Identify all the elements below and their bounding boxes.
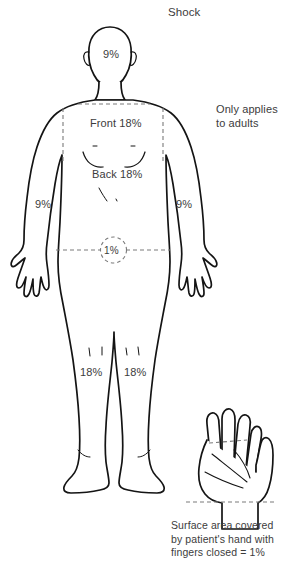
right-leg-percentage-label: 18% xyxy=(124,366,146,379)
back-torso-percentage-label: Back 18% xyxy=(92,168,142,181)
head-percentage-label: 9% xyxy=(103,48,119,61)
hand-surface-area-caption: Surface area covered by patient's hand w… xyxy=(171,519,287,560)
page-title: Shock xyxy=(168,6,200,19)
groin-percentage-label: 1% xyxy=(104,244,119,257)
right-arm-percentage-label: 9% xyxy=(176,198,192,211)
body-figure-illustration xyxy=(0,0,289,578)
adults-only-note: Only applies to adults xyxy=(216,102,286,130)
left-arm-percentage-label: 9% xyxy=(35,198,51,211)
front-torso-percentage-label: Front 18% xyxy=(90,117,142,130)
rule-of-nines-diagram: Shock Only applies to adults 9% Front 18… xyxy=(0,0,289,578)
left-leg-percentage-label: 18% xyxy=(80,366,102,379)
torso-and-limbs-outline xyxy=(11,100,217,493)
neck-outline xyxy=(95,82,125,100)
